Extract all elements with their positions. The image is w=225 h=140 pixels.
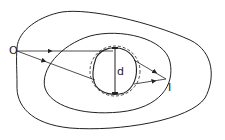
outer-region: [17, 11, 212, 128]
image-point-label: I: [168, 81, 171, 94]
ray-diagram: O I d: [0, 0, 225, 140]
ray-upper-refracted: [134, 60, 166, 79]
ray-lower-refracted: [134, 79, 166, 84]
diameter-label: d: [117, 65, 124, 78]
middle-region: [44, 33, 171, 113]
object-point-label: O: [9, 44, 18, 57]
ray-lower-incident: [17, 51, 95, 80]
